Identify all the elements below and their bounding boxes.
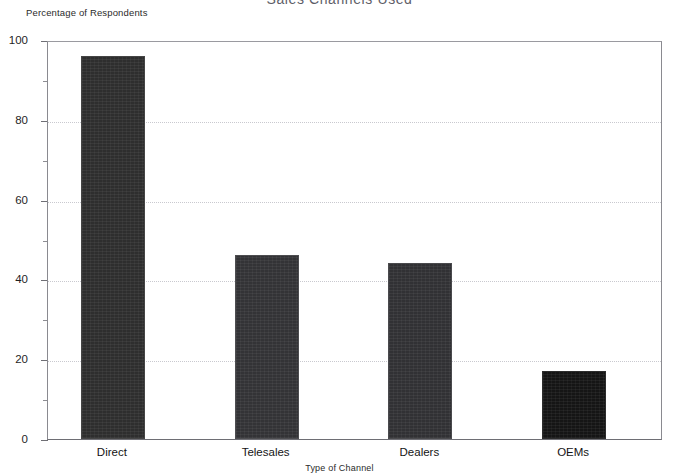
chart-title: Sales Channels Used (0, 0, 679, 7)
x-tick-label-oems: OEMs (513, 446, 633, 458)
x-tick-label-direct: Direct (52, 446, 172, 458)
x-tick-label-dealers: Dealers (359, 446, 479, 458)
y-tick-label: 60 (15, 194, 28, 206)
y-tick-label: 0 (22, 433, 28, 445)
bar-chart-figure: Sales Channels Used Percentage of Respon… (0, 0, 679, 476)
bar-oems (542, 371, 606, 439)
y-tick-label: 40 (15, 273, 28, 285)
x-axis-label: Type of Channel (0, 463, 679, 473)
bar-dealers (388, 263, 452, 439)
y-tick-label: 80 (15, 114, 28, 126)
y-tick-label: 100 (9, 34, 28, 46)
y-axis-label: Percentage of Respondents (26, 7, 148, 18)
y-tick-major (41, 440, 48, 441)
x-tick-label-telesales: Telesales (206, 446, 326, 458)
bar-telesales (235, 255, 299, 439)
bar-direct (81, 56, 145, 439)
y-tick-label: 20 (15, 353, 28, 365)
plot-area (47, 41, 662, 440)
